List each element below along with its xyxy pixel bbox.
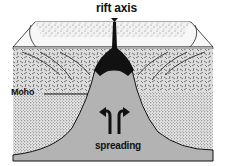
rift-axis-marker (111, 18, 118, 22)
ridge-diagram: rift axis Moho spreading (0, 0, 226, 166)
moho-label: Moho (11, 87, 34, 97)
rift-axis-label: rift axis (96, 1, 137, 15)
spreading-label: spreading (95, 140, 141, 151)
